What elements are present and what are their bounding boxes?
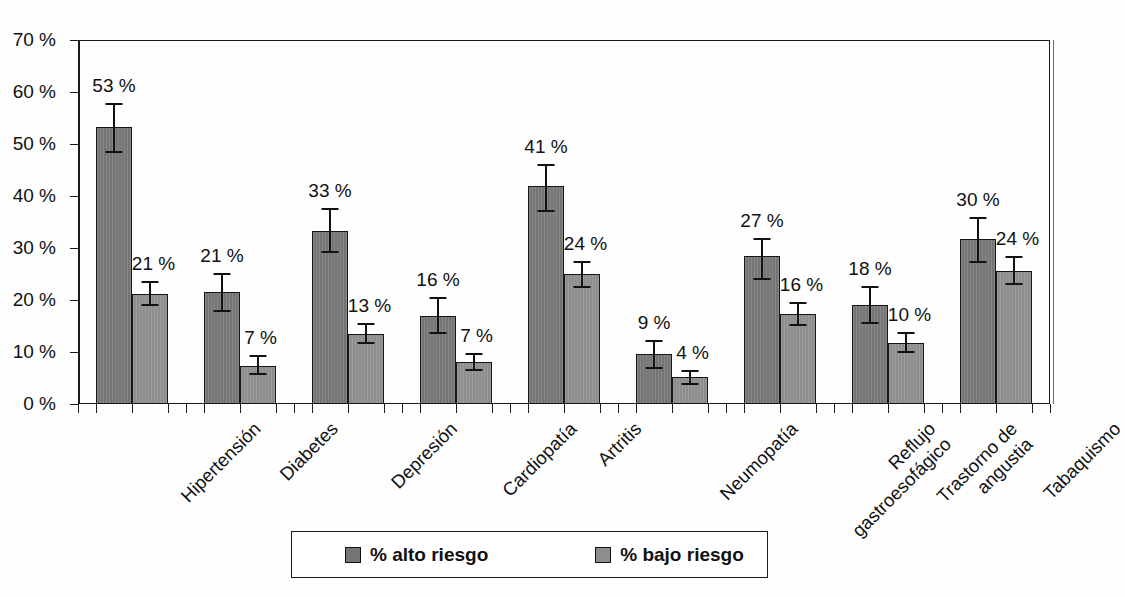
error-bar-stem xyxy=(545,164,547,212)
error-bar-cap-lower xyxy=(682,383,699,385)
error-bar-cap-upper xyxy=(538,164,555,166)
error-bar-cap-upper xyxy=(142,281,159,283)
error-bar xyxy=(204,273,240,313)
error-bar-stem xyxy=(869,286,871,324)
y-axis-tick xyxy=(70,352,78,353)
error-bar-cap-lower xyxy=(466,369,483,371)
error-bar-cap-lower xyxy=(1006,283,1023,285)
error-bar xyxy=(564,261,600,288)
error-bar xyxy=(312,208,348,253)
error-bar-cap-upper xyxy=(430,297,447,299)
bar xyxy=(132,294,168,404)
bar xyxy=(564,274,600,404)
error-bar xyxy=(780,302,816,326)
error-bar-cap-lower xyxy=(790,324,807,326)
error-bar-cap-upper xyxy=(574,261,591,263)
error-bar-cap-upper xyxy=(1006,256,1023,258)
error-bar-stem xyxy=(581,261,583,288)
bar-value-label: 21 % xyxy=(132,253,175,275)
error-bar xyxy=(672,370,708,386)
error-bar xyxy=(456,353,492,372)
error-bar xyxy=(96,103,132,153)
bar-value-label: 24 % xyxy=(996,228,1039,250)
legend-swatch-icon xyxy=(595,547,611,563)
error-bar-cap-upper xyxy=(466,353,483,355)
error-bar-cap-lower xyxy=(358,342,375,344)
y-axis-tick-label: 60 % xyxy=(13,81,56,103)
error-bar-stem xyxy=(329,208,331,253)
x-axis-category-label: Neumopatía xyxy=(716,418,803,505)
error-bar-stem xyxy=(797,302,799,326)
bar-value-label: 13 % xyxy=(348,295,391,317)
error-bar-cap-lower xyxy=(430,332,447,334)
y-axis-tick xyxy=(70,248,78,249)
error-bar-cap-upper xyxy=(250,355,267,357)
x-axis-category-label: Reflujogastroesofágico xyxy=(832,418,955,541)
bar-value-label: 33 % xyxy=(308,180,351,202)
error-bar-stem xyxy=(653,340,655,369)
bar xyxy=(996,271,1032,404)
bar-value-label: 10 % xyxy=(888,304,931,326)
legend-item-alto-riesgo: % alto riesgo xyxy=(345,544,488,566)
error-bar-cap-lower xyxy=(142,304,159,306)
bar xyxy=(96,127,132,404)
x-axis-category-label: Trastorno deangustia xyxy=(933,418,1038,523)
bar-value-label: 30 % xyxy=(956,189,999,211)
error-bar-cap-upper xyxy=(322,208,339,210)
bar-value-label: 7 % xyxy=(244,327,277,349)
legend-swatch-icon xyxy=(345,547,361,563)
error-bar xyxy=(744,238,780,281)
y-axis-tick xyxy=(70,92,78,93)
bar-value-label: 27 % xyxy=(740,210,783,232)
x-axis-category-label: Hipertensión xyxy=(176,418,265,507)
y-axis-tick xyxy=(70,196,78,197)
error-bar-stem xyxy=(149,281,151,306)
error-bar-stem xyxy=(1013,256,1015,285)
error-bar-cap-lower xyxy=(862,322,879,324)
error-bar xyxy=(852,286,888,324)
bar xyxy=(348,334,384,404)
bar-value-label: 16 % xyxy=(416,269,459,291)
x-axis-category-label: Artritis xyxy=(593,418,646,471)
y-axis-tick-label: 70 % xyxy=(13,29,56,51)
error-bar xyxy=(636,340,672,369)
x-axis-category-label: Diabetes xyxy=(275,418,342,485)
bar xyxy=(312,231,348,404)
x-axis-category-label-line: Depresión xyxy=(387,418,461,492)
legend-label: % bajo riesgo xyxy=(620,544,744,566)
y-axis-tick-label: 20 % xyxy=(13,289,56,311)
y-axis-tick-label: 10 % xyxy=(13,341,56,363)
bar-value-label: 41 % xyxy=(524,136,567,158)
error-bar xyxy=(348,323,384,343)
x-axis-category-label-line: Artritis xyxy=(593,418,645,470)
error-bar-cap-upper xyxy=(970,217,987,219)
error-bar-stem xyxy=(761,238,763,281)
y-axis-tick xyxy=(70,300,78,301)
error-bar-cap-lower xyxy=(754,278,771,280)
x-axis-category-label-line: Hipertensión xyxy=(176,418,264,506)
error-bar-cap-upper xyxy=(646,340,663,342)
error-bar-stem xyxy=(221,273,223,313)
error-bar-cap-lower xyxy=(106,151,123,153)
bar xyxy=(960,239,996,404)
error-bar-cap-lower xyxy=(574,286,591,288)
error-bar-stem xyxy=(437,297,439,333)
bar-value-label: 24 % xyxy=(564,233,607,255)
chart-legend: % alto riesgo % bajo riesgo xyxy=(291,531,768,578)
x-axis-category-label: Tabaquismo xyxy=(1039,418,1125,504)
bar-value-label: 9 % xyxy=(638,312,671,334)
error-bar-cap-upper xyxy=(358,323,375,325)
x-axis-category-label: Depresión xyxy=(387,418,462,493)
legend-label: % alto riesgo xyxy=(370,544,488,566)
error-bar-cap-lower xyxy=(250,373,267,375)
y-axis-tick-label: 30 % xyxy=(13,237,56,259)
x-axis-category-labels: HipertensiónDiabetesDepresiónCardiopatía… xyxy=(0,412,1075,532)
bar-value-label: 4 % xyxy=(676,342,709,364)
x-axis-category-label-line: Tabaquismo xyxy=(1039,418,1124,503)
error-bar-stem xyxy=(977,217,979,263)
error-bar xyxy=(996,256,1032,285)
error-bar-cap-upper xyxy=(790,302,807,304)
x-axis-category-label-line: Neumopatía xyxy=(716,418,802,504)
error-bar-stem xyxy=(113,103,115,153)
